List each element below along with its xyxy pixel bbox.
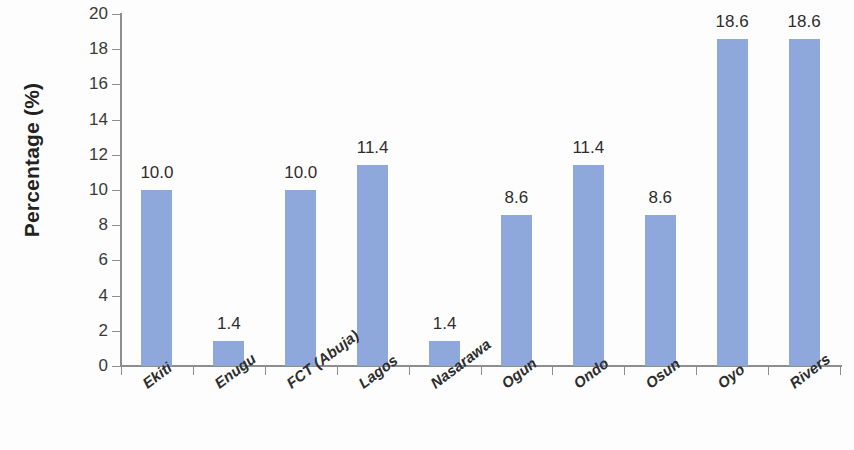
bar[interactable] bbox=[501, 215, 532, 366]
y-axis-tick bbox=[112, 331, 121, 332]
bar-value-label: 8.6 bbox=[476, 188, 556, 208]
y-axis-tick-label: 12 bbox=[64, 145, 108, 165]
bar-value-label: 11.4 bbox=[333, 138, 413, 158]
y-axis-tick bbox=[112, 120, 121, 121]
bar-value-label: 18.6 bbox=[764, 12, 844, 32]
y-axis-tick bbox=[112, 366, 121, 367]
plot-area: 10.01.410.011.41.48.611.48.618.618.6 bbox=[121, 14, 840, 366]
y-axis-tick bbox=[112, 155, 121, 156]
x-axis-tick bbox=[552, 366, 553, 375]
y-axis-tick-label: 8 bbox=[64, 215, 108, 235]
y-axis-tick-label: 16 bbox=[64, 74, 108, 94]
y-axis-tick bbox=[112, 225, 121, 226]
bar-chart-figure: Percentage (%) 02468101214161820 10.01.4… bbox=[0, 0, 854, 450]
y-axis-tick bbox=[112, 260, 121, 261]
y-axis-tick-label: 0 bbox=[64, 356, 108, 376]
bar[interactable] bbox=[789, 39, 820, 366]
y-axis-tick bbox=[112, 296, 121, 297]
bar-value-label: 10.0 bbox=[117, 163, 197, 183]
bar[interactable] bbox=[645, 215, 676, 366]
x-axis-tick bbox=[768, 366, 769, 375]
bar[interactable] bbox=[357, 165, 388, 366]
y-axis-tick-label: 4 bbox=[64, 286, 108, 306]
bar[interactable] bbox=[573, 165, 604, 366]
x-axis-tick bbox=[624, 366, 625, 375]
bar[interactable] bbox=[141, 190, 172, 366]
bar-value-label: 11.4 bbox=[548, 138, 628, 158]
bar-value-label: 10.0 bbox=[261, 163, 341, 183]
x-axis-tick bbox=[481, 366, 482, 375]
x-axis-tick bbox=[337, 366, 338, 375]
bar-value-label: 1.4 bbox=[189, 314, 269, 334]
x-axis-tick bbox=[121, 366, 122, 375]
x-axis-tick bbox=[409, 366, 410, 375]
x-axis-tick bbox=[265, 366, 266, 375]
bar-value-label: 18.6 bbox=[692, 12, 772, 32]
y-axis-tick bbox=[112, 49, 121, 50]
y-axis-tick bbox=[112, 14, 121, 15]
bar[interactable] bbox=[717, 39, 748, 366]
bar[interactable] bbox=[285, 190, 316, 366]
y-axis-tick-label: 6 bbox=[64, 250, 108, 270]
y-axis-tick bbox=[112, 190, 121, 191]
y-axis-tick-label: 20 bbox=[64, 4, 108, 24]
y-axis-title: Percentage (%) bbox=[20, 50, 44, 270]
x-axis-tick bbox=[696, 366, 697, 375]
y-axis-tick-label: 18 bbox=[64, 39, 108, 59]
x-axis-tick bbox=[840, 366, 841, 375]
y-axis-tick bbox=[112, 84, 121, 85]
bar-value-label: 8.6 bbox=[620, 188, 700, 208]
y-axis-tick-label: 14 bbox=[64, 110, 108, 130]
y-axis-tick-label: 2 bbox=[64, 321, 108, 341]
bar-value-label: 1.4 bbox=[405, 314, 485, 334]
x-axis-tick bbox=[193, 366, 194, 375]
y-axis-tick-label: 10 bbox=[64, 180, 108, 200]
